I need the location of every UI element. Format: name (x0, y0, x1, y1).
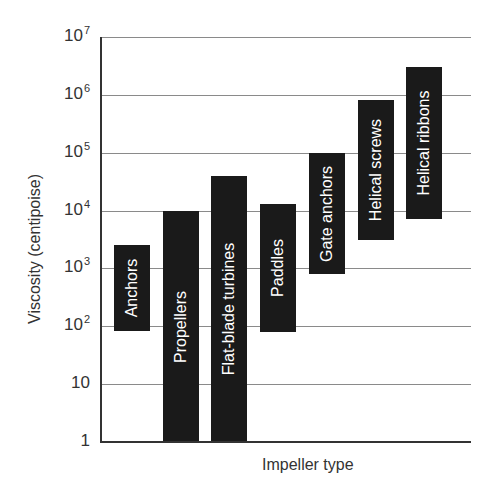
bar-label: Paddles (269, 239, 287, 297)
y-axis-line (100, 37, 102, 443)
bar-paddles: Paddles (260, 204, 296, 332)
y-tick-label: 105 (30, 143, 90, 160)
gridline (100, 384, 471, 385)
bar-label: Propellers (172, 290, 190, 362)
bar-anchors: Anchors (114, 245, 150, 331)
bar-label: Helical screws (367, 119, 385, 221)
y-tick-label: 107 (30, 27, 90, 44)
bar-helical-screws: Helical screws (358, 100, 394, 240)
y-axis-title: Viscosity (centipoise) (26, 174, 44, 324)
bar-flat-blade-turbines: Flat-blade turbines (211, 176, 247, 442)
bar-gate-anchors: Gate anchors (309, 153, 345, 274)
y-tick-label: 106 (30, 85, 90, 102)
x-axis-title: Impeller type (262, 456, 354, 474)
y-tick-label: 10 (30, 374, 90, 391)
bar-label: Gate anchors (318, 165, 336, 261)
gridline (100, 37, 471, 38)
bar-label: Anchors (123, 259, 141, 318)
bar-label: Flat-blade turbines (220, 243, 238, 376)
x-axis-line (100, 441, 471, 443)
bar-label: Helical ribbons (415, 91, 433, 196)
bar-propellers: Propellers (163, 211, 199, 442)
y-tick-label: 1 (30, 432, 90, 449)
viscosity-range-chart: 110102103104105106107 AnchorsPropellersF… (0, 0, 495, 499)
bar-helical-ribbons: Helical ribbons (406, 67, 442, 219)
